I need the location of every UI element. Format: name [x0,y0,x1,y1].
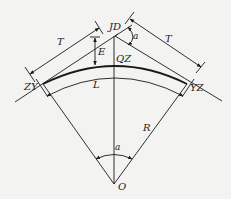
main-curve [43,66,187,84]
alpha-center-label: a [115,142,120,152]
t-right-tick-b [196,62,205,73]
qz-label: QZ [116,53,132,64]
yz-label: YZ [190,82,205,93]
radius-right [114,84,187,184]
t-left-tick-b [95,21,103,34]
radius-left [43,84,114,184]
zy-label: ZY [23,81,39,92]
length-arc [47,78,183,96]
r-label: R [142,122,151,133]
alpha-top-label: a [133,31,138,41]
l-label: L [92,79,100,90]
e-label: E [97,46,106,57]
curve-diagram: JD QZ ZY YZ O T T E L R a a [0,0,231,199]
t-left-tick-a [25,67,35,82]
t-right-tick-a [125,12,134,24]
t-left-dimension [30,28,99,74]
o-label: O [118,181,126,192]
tangent-line-right [115,36,222,101]
t-right-label: T [165,33,173,44]
t-left-label: T [57,36,65,47]
jd-label: JD [107,21,121,32]
diagram-canvas: JD QZ ZY YZ O T T E L R a a [0,0,231,199]
